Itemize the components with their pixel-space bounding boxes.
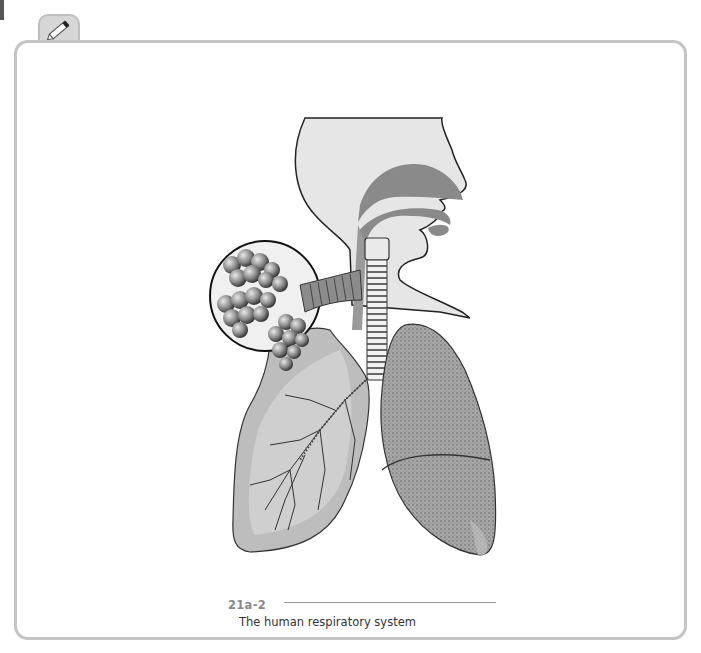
caption-text: The human respiratory system bbox=[239, 615, 528, 629]
caption-rule bbox=[284, 602, 496, 603]
respiratory-illustration bbox=[0, 0, 701, 653]
right-lung bbox=[381, 324, 496, 555]
larynx bbox=[365, 238, 389, 260]
trachea bbox=[367, 260, 387, 380]
figure-number: 21a-2 bbox=[228, 598, 266, 612]
figure-caption: 21a-2 The human respiratory system bbox=[228, 594, 528, 629]
